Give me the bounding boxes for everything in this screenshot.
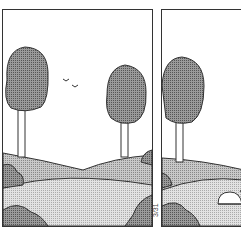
left-tree-trunk: [18, 110, 25, 157]
birds-icon: [63, 79, 78, 87]
comic-panel-1: [2, 9, 153, 227]
panel-2-scene: [162, 10, 241, 226]
right-bush: [141, 150, 152, 165]
left-tree-foliage: [162, 57, 204, 123]
comic-panel-2: [161, 9, 241, 227]
right-tree-foliage: [107, 65, 147, 123]
right-tree-trunk: [121, 122, 128, 157]
left-tree-foliage: [6, 47, 48, 111]
panel-1-scene: [3, 10, 152, 226]
left-tree-trunk: [176, 120, 183, 162]
